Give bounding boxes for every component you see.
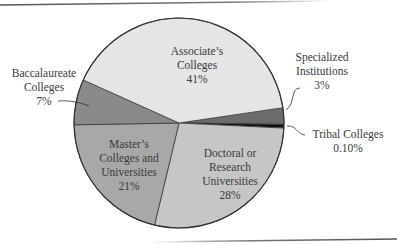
label-text: Universities: [190, 174, 270, 188]
label-pct: 0.10%: [300, 141, 396, 155]
pie-chart: [0, 0, 397, 245]
label-specialized: Specialized Institutions 3%: [282, 50, 362, 92]
label-tribal: Tribal Colleges 0.10%: [300, 127, 396, 155]
label-text: Tribal Colleges: [300, 127, 396, 141]
label-pct: 7%: [0, 94, 88, 108]
label-text: Associate’s: [152, 44, 242, 58]
label-text: Colleges and: [88, 151, 170, 165]
label-text: Baccalaureate: [0, 66, 88, 80]
top-rule: [0, 1, 330, 5]
label-text: Colleges: [0, 80, 88, 94]
label-text: Institutions: [282, 64, 362, 78]
label-text: Doctoral or: [190, 146, 270, 160]
label-pct: 3%: [282, 78, 362, 92]
bottom-rule: [150, 239, 397, 242]
label-text: Research: [190, 160, 270, 174]
label-pct: 28%: [190, 188, 270, 202]
label-doctoral: Doctoral or Research Universities 28%: [190, 146, 270, 202]
label-associates: Associate’s Colleges 41%: [152, 44, 242, 86]
label-text: Master’s: [88, 137, 170, 151]
label-baccalaureate: Baccalaureate Colleges 7%: [0, 66, 88, 108]
label-pct: 41%: [152, 72, 242, 86]
label-text: Specialized: [282, 50, 362, 64]
label-text: Colleges: [152, 58, 242, 72]
label-masters: Master’s Colleges and Universities 21%: [88, 137, 170, 193]
label-text: Universities: [88, 165, 170, 179]
label-pct: 21%: [88, 179, 170, 193]
